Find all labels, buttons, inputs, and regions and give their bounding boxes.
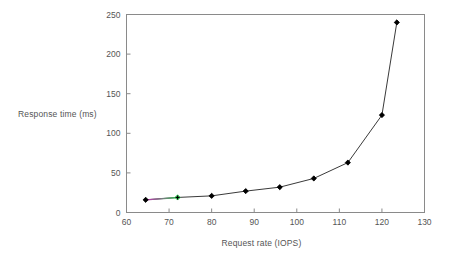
y-tick-label: 150: [106, 89, 120, 99]
chart-figure: Response time (ms) Request rate (IOPS) 6…: [0, 0, 473, 258]
colored-line-segment: [146, 197, 178, 199]
x-tick-label: 90: [249, 217, 259, 227]
y-tick-label: 250: [106, 10, 120, 20]
plot-area: 60708090100110120130 050100150200250: [0, 0, 473, 258]
x-tick-label: 60: [122, 217, 132, 227]
y-tick-label: 50: [111, 168, 121, 178]
series-marker-group: [143, 20, 399, 203]
x-axis-label-wrap: Request rate (IOPS): [0, 238, 473, 248]
series-line-group: [146, 22, 397, 199]
x-tick-label: 80: [207, 217, 217, 227]
x-tick-label: 100: [290, 217, 304, 227]
x-axis-label: Request rate (IOPS): [222, 238, 302, 248]
y-tick-label: 0: [116, 208, 121, 218]
x-tick-label: 70: [164, 217, 174, 227]
series-line: [146, 22, 397, 199]
y-tick-label: 100: [106, 128, 120, 138]
x-tick-label: 120: [375, 217, 389, 227]
x-tick-group: 60708090100110120130: [122, 209, 432, 227]
axis-box: [127, 15, 425, 213]
y-tick-label: 200: [106, 49, 120, 59]
y-axis-label: Response time (ms): [18, 109, 97, 119]
x-tick-label: 130: [417, 217, 431, 227]
axis-frame: [127, 15, 425, 213]
x-tick-label: 110: [333, 217, 347, 227]
